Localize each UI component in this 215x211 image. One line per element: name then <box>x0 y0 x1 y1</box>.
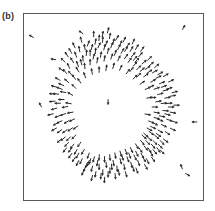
ring-arrow <box>140 68 145 72</box>
ring-arrow <box>70 58 73 63</box>
isolated-arrow <box>192 120 197 123</box>
ring-arrow <box>138 160 141 166</box>
ring-arrow <box>103 177 106 183</box>
ring-arrow <box>65 102 71 105</box>
ring-arrow <box>96 160 99 166</box>
arrow-head <box>114 177 117 179</box>
isolated-arrow <box>182 25 185 30</box>
ring-arrow <box>55 102 61 105</box>
ring-arrow <box>168 106 174 109</box>
ring-arrow <box>159 115 165 118</box>
arrow-head <box>98 66 101 68</box>
ring-arrow <box>166 87 172 90</box>
ring-arrow <box>89 59 92 65</box>
ring-arrow <box>148 147 152 152</box>
ring-arrow <box>168 79 174 82</box>
ring-arrow <box>170 94 176 97</box>
arrow-head <box>49 100 51 103</box>
ring-arrow <box>57 121 63 124</box>
ring-arrow <box>145 66 150 70</box>
ring-arrow <box>166 102 172 105</box>
ring-arrow <box>76 67 79 72</box>
ring-arrow <box>163 139 168 143</box>
ring-arrow <box>101 31 104 37</box>
ring-arrow <box>93 53 96 59</box>
ring-arrow <box>74 149 77 154</box>
ring-arrow <box>130 147 133 153</box>
ring-arrow <box>70 144 74 149</box>
ring-arrow <box>87 40 90 46</box>
ring-arrow <box>61 58 65 62</box>
ring-arrow <box>76 61 79 67</box>
arrow-head <box>94 48 97 50</box>
ring-arrow <box>72 42 75 48</box>
ring-arrow <box>63 148 67 153</box>
ring-arrow <box>144 164 147 169</box>
ring-arrow <box>72 84 76 88</box>
ring-arrow <box>136 66 140 70</box>
ring-arrow <box>58 83 64 86</box>
ring-arrow <box>145 113 151 116</box>
ring-arrow <box>72 75 76 80</box>
ring-arrow <box>163 73 168 76</box>
arrow-head <box>103 160 106 162</box>
ring-arrow <box>145 140 149 144</box>
ring-arrow <box>114 153 117 159</box>
ring-arrow <box>72 157 76 162</box>
ring-arrow <box>60 113 66 116</box>
ring-arrow <box>64 79 69 83</box>
ring-arrow <box>164 96 170 99</box>
ring-arrow <box>55 77 60 80</box>
ring-arrow <box>135 44 138 49</box>
ring-arrow <box>140 46 144 51</box>
ring-arrow <box>142 60 147 64</box>
arrow-head <box>172 106 174 109</box>
arrow-head <box>170 102 172 105</box>
ring-arrow <box>67 111 73 114</box>
ring-arrow <box>100 52 103 58</box>
ring-arrow <box>67 63 70 69</box>
arrow-head <box>177 104 179 107</box>
ring-arrow <box>172 90 178 93</box>
ring-arrow <box>96 57 99 63</box>
ring-arrow <box>139 147 143 152</box>
ring-arrow <box>77 78 81 83</box>
arrow-head <box>81 55 84 57</box>
ring-arrow <box>114 50 117 56</box>
ring-arrow <box>157 92 163 95</box>
ring-arrow <box>118 44 121 50</box>
ring-arrow <box>105 162 108 168</box>
ring-arrow <box>136 151 139 157</box>
ring-arrow <box>119 65 122 71</box>
ring-arrow <box>112 63 115 69</box>
ring-arrow <box>136 168 139 174</box>
isolated-arrow <box>39 103 42 108</box>
ring-arrow <box>78 46 81 52</box>
ring-arrow <box>79 59 82 65</box>
ring-arrow <box>170 111 176 114</box>
ring-arrow <box>81 149 84 154</box>
ring-arrow <box>57 87 63 90</box>
ring-arrow <box>150 79 155 82</box>
ring-arrow <box>158 144 162 148</box>
ring-arrow <box>158 130 163 133</box>
ring-arrow <box>121 154 124 160</box>
ring-arrow <box>161 124 167 127</box>
ring-arrow <box>64 142 68 146</box>
arrow-head <box>108 172 111 174</box>
ring-arrow <box>58 98 64 101</box>
ring-arrow <box>126 69 130 74</box>
ring-arrow <box>101 37 104 43</box>
isolated-arrow <box>51 58 56 61</box>
arrow-head <box>92 31 95 33</box>
arrow-field <box>29 25 197 183</box>
ring-arrow <box>109 33 112 39</box>
ring-arrow <box>170 128 176 131</box>
arrow-head <box>83 63 86 65</box>
ring-arrow <box>77 142 81 147</box>
ring-arrow <box>107 27 110 33</box>
ring-arrow <box>101 169 104 175</box>
ring-arrow <box>76 153 79 158</box>
ring-arrow <box>98 35 101 41</box>
ring-arrow <box>111 54 114 60</box>
